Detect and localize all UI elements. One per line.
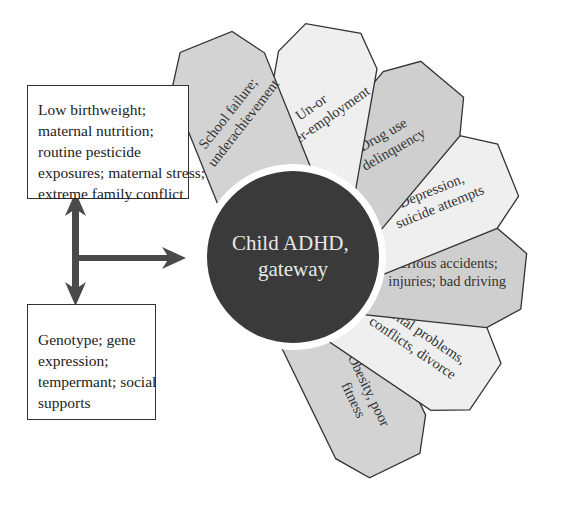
genetic-factor-line: supports [38, 392, 155, 413]
genetic-factor-line: tempermant; social [38, 371, 155, 392]
risk-factor-line: maternal nutrition; [38, 120, 188, 141]
risk-factor-line: Low birthweight; [38, 99, 188, 120]
adhd-gateway-diagram: Obesity, poor fitness Marital problems, … [0, 0, 568, 514]
risk-factor-line: routine pesticide [38, 141, 188, 162]
genetic-factors-box: Genotype; gene expression; tempermant; s… [27, 304, 156, 420]
risk-factor-line: extreme family conflict [38, 183, 188, 204]
risk-factors-box: Low birthweight; maternal nutrition; rou… [27, 85, 189, 199]
genetic-factor-line: Genotype; gene [38, 329, 155, 350]
vertical-arrow-shaft [72, 205, 79, 295]
risk-factor-line: exposures; maternal stress; [38, 162, 188, 183]
genetic-factor-line: expression; [38, 350, 155, 371]
horizontal-arrow-shaft [79, 255, 175, 261]
arrows [65, 192, 186, 306]
